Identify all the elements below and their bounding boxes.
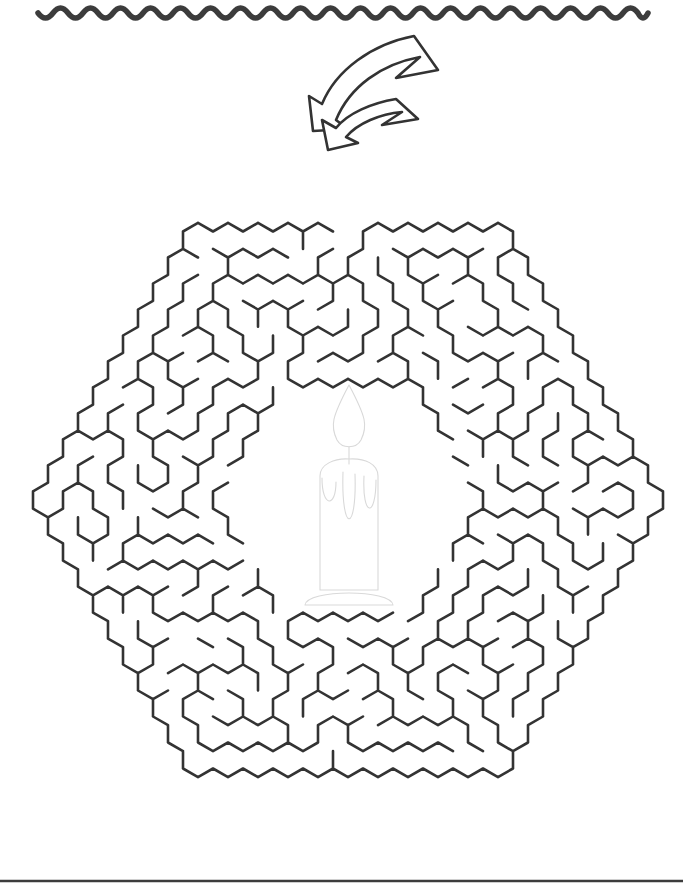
arrow-layer	[0, 0, 683, 894]
maze-page	[0, 0, 683, 894]
